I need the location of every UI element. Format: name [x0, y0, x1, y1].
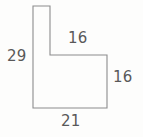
- l-shape-polygon: [33, 6, 107, 108]
- geometry-figure: 29 16 16 21: [0, 0, 143, 137]
- dimension-label-left: 29: [7, 49, 27, 64]
- dimension-label-top: 16: [68, 31, 88, 46]
- dimension-label-bottom: 21: [61, 114, 81, 129]
- dimension-label-right: 16: [113, 70, 133, 85]
